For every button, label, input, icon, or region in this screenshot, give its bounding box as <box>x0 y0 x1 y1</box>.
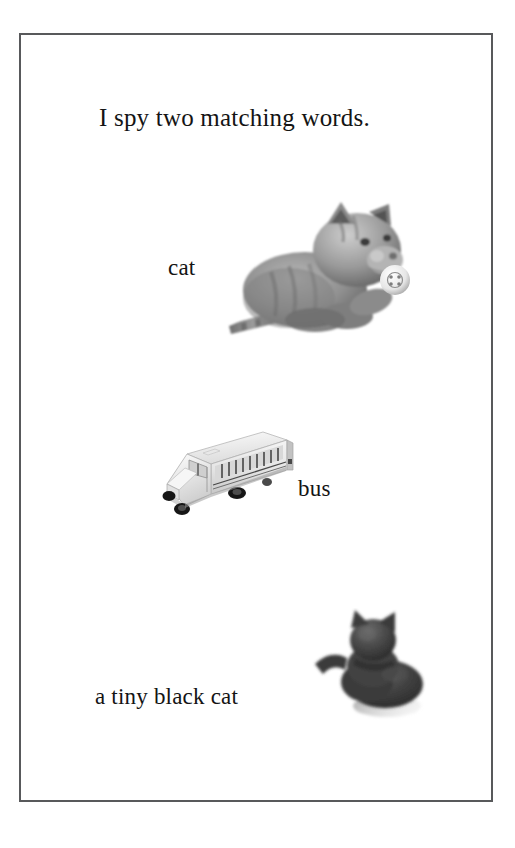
black-cat-figurine-picture <box>311 608 429 722</box>
toy-school-bus-picture <box>145 426 297 526</box>
word-label-a-tiny-black-cat: a tiny black cat <box>95 685 238 708</box>
page-title: I spy two matching words. <box>99 105 370 130</box>
worksheet-page-frame: I spy two matching words. cat <box>19 33 493 802</box>
gray-cat-figurine-picture <box>219 198 417 344</box>
word-label-cat: cat <box>168 256 195 279</box>
word-label-bus: bus <box>298 477 331 500</box>
